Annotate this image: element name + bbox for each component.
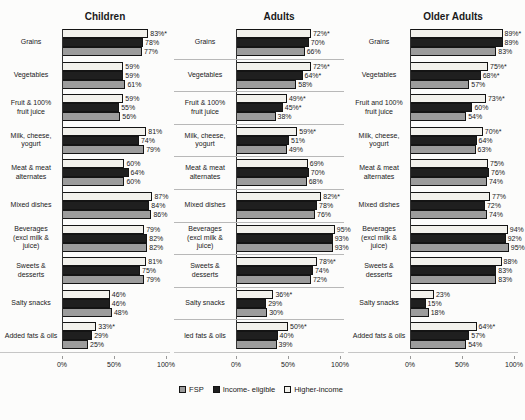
panel-adults: AdultsGrains72%*70%66%Vegetables72%*64%*… <box>174 0 348 372</box>
bars: 75%*68%*57% <box>410 62 514 89</box>
value-label: 59% <box>123 71 139 80</box>
bar-row: 70%* <box>410 127 514 136</box>
bar-row: 87% <box>62 192 166 201</box>
bar-row: 45%* <box>236 103 340 112</box>
bars: 59%59%61% <box>62 62 166 89</box>
value-label: 36%* <box>273 290 292 299</box>
bar-row: 72%* <box>236 62 340 71</box>
bars: 69%70%68% <box>236 159 340 186</box>
bar-row: 64%* <box>410 322 514 331</box>
bar-row: 48% <box>62 308 166 317</box>
bar-higher-income <box>410 159 488 168</box>
category-group: Fruit & 100%fruit juice49%*45%*38% <box>174 94 348 127</box>
bars: 89%*89%83% <box>410 29 514 56</box>
x-axis-tick-label: 50% <box>107 361 121 368</box>
bar-row: 59% <box>62 71 166 80</box>
bar-row: 64% <box>410 136 514 145</box>
category-group: Beverages(excl milk &juice)94%92%95% <box>348 225 522 258</box>
x-axis-tick-label: 100% <box>157 361 175 368</box>
value-label: 72% <box>485 201 501 210</box>
bar-row: 93% <box>236 234 340 243</box>
bar-fsp <box>410 340 466 349</box>
category-label-line: alternates <box>364 173 395 182</box>
group-divider <box>174 254 344 255</box>
bars: 81%75%79% <box>62 257 166 284</box>
bar-row: 78%* <box>236 257 340 266</box>
bar-row: 89%* <box>410 29 514 38</box>
value-label: 78%* <box>317 257 336 266</box>
bar-row: 84% <box>62 201 166 210</box>
category-group: Fruit and 100%fruit juice73%*60%54% <box>348 94 522 127</box>
bar-row: 38% <box>236 112 340 121</box>
bar-row: 51% <box>236 136 340 145</box>
category-label: Grains <box>0 29 62 56</box>
value-label: 86% <box>151 210 167 219</box>
bar-higher-income <box>410 257 502 266</box>
bar-row: 59% <box>62 94 166 103</box>
bar-higher-income <box>236 192 321 201</box>
bar-row: 77% <box>62 47 166 56</box>
category-label-line: Fruit and 100% <box>355 99 402 108</box>
category-label: Vegetables <box>348 62 410 89</box>
category-label-line: Beverages <box>14 225 47 234</box>
bar-income-eligible <box>62 331 92 340</box>
bar-fsp <box>62 210 151 219</box>
y-axis-line <box>410 29 411 349</box>
value-label: 70% <box>309 168 325 177</box>
value-label: 59%* <box>297 127 316 136</box>
bar-income-eligible <box>410 266 496 275</box>
bar-row: 86% <box>62 210 166 219</box>
bar-fsp <box>62 243 147 252</box>
value-label: 81% <box>146 127 162 136</box>
bar-row: 79% <box>62 275 166 284</box>
value-label: 57% <box>469 80 485 89</box>
value-label: 77% <box>490 192 506 201</box>
bar-row: 73%* <box>410 94 514 103</box>
bar-fsp <box>62 47 142 56</box>
bar-row: 25% <box>62 340 166 349</box>
bar-row: 60% <box>62 177 166 186</box>
bar-fsp <box>62 145 144 154</box>
value-label: 79% <box>144 145 160 154</box>
bar-higher-income <box>62 159 124 168</box>
bar-fsp <box>236 308 267 317</box>
value-label: 74% <box>139 136 155 145</box>
value-label: 55% <box>119 103 135 112</box>
bar-income-eligible <box>410 136 477 145</box>
bar-row: 83% <box>410 275 514 284</box>
value-label: 89%* <box>503 29 522 38</box>
category-label: Milk, cheese,yogurt <box>0 127 62 154</box>
category-label-line: Meat & meat <box>359 164 399 173</box>
value-label: 75%* <box>488 62 507 71</box>
category-label: Milk, cheese,yogurt <box>174 127 236 154</box>
value-label: 78% <box>317 201 333 210</box>
category-label: Salty snacks <box>174 290 236 317</box>
bar-row: 56% <box>62 112 166 121</box>
value-label: 49%* <box>287 94 306 103</box>
value-label: 63% <box>476 145 492 154</box>
category-label-line: Meat & meat <box>185 164 225 173</box>
bar-row: 74% <box>236 266 340 275</box>
value-label: 33%* <box>96 322 115 331</box>
category-label-line: Beverages <box>362 225 395 234</box>
value-label: 74% <box>313 266 329 275</box>
bar-row: 81% <box>62 257 166 266</box>
group-divider <box>174 124 344 125</box>
bar-income-eligible <box>236 299 266 308</box>
bar-fsp <box>62 340 88 349</box>
category-label: Meat & meatalternates <box>0 159 62 186</box>
category-label: Added fats & oils <box>0 322 62 349</box>
bars: 50%*40%39% <box>236 322 340 349</box>
category-label-line: Grains <box>21 38 42 47</box>
category-label: Salty snacks <box>0 290 62 317</box>
bar-higher-income <box>410 127 483 136</box>
value-label: 23% <box>434 290 450 299</box>
category-label-line: (excl milk & <box>13 234 49 243</box>
bar-row: 54% <box>410 112 514 121</box>
bar-higher-income <box>236 94 287 103</box>
value-label: 93% <box>333 234 349 243</box>
bar-fsp <box>410 80 469 89</box>
bar-row: 83% <box>410 266 514 275</box>
bar-fsp <box>236 210 315 219</box>
value-label: 40% <box>278 331 294 340</box>
